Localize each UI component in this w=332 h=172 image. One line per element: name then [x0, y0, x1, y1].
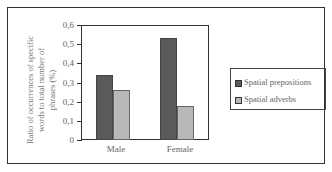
- legend-label: Spatial prepositions: [244, 77, 311, 87]
- bar-female-adverbs: [177, 106, 194, 141]
- y-tick-label: 0,5: [56, 39, 74, 49]
- legend-swatch-dark: [235, 80, 242, 87]
- y-axis-label: Ratio of occurrences of specific words t…: [25, 35, 61, 145]
- bar-male-adverbs: [113, 90, 130, 140]
- legend-item-adverbs: Spatial adverbs: [235, 94, 296, 104]
- legend-label: Spatial adverbs: [244, 94, 296, 104]
- bar-male-prepositions: [96, 75, 113, 140]
- bar-female-prepositions: [160, 38, 177, 140]
- y-tick-label: 0,3: [56, 78, 74, 88]
- y-tick-label: 0,2: [56, 97, 74, 107]
- y-tick-label: 0,4: [56, 58, 74, 68]
- y-tick-label: 0,1: [56, 116, 74, 126]
- legend: Spatial prepositions Spatial adverbs: [230, 68, 326, 110]
- y-tick-label: 0,6: [56, 20, 74, 30]
- x-label-male: Male: [86, 144, 146, 154]
- legend-item-prepositions: Spatial prepositions: [235, 77, 311, 87]
- y-tick-label: 0: [56, 135, 74, 145]
- y-tick: [77, 140, 82, 141]
- legend-swatch-light: [235, 97, 242, 104]
- x-label-female: Female: [150, 144, 210, 154]
